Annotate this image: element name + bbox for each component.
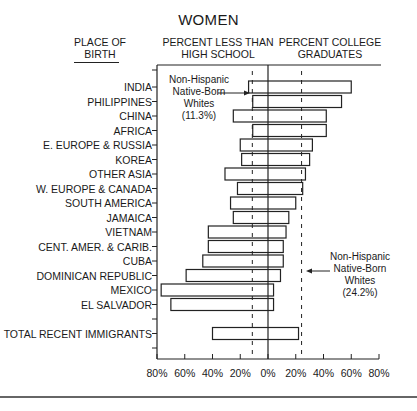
category-label: SOUTH AMERICA bbox=[65, 197, 152, 209]
category-label: JAMAICA bbox=[106, 212, 152, 224]
category-label: MEXICO bbox=[111, 284, 152, 296]
note-line: Non-Hispanic bbox=[163, 74, 235, 86]
category-label: VIETNAM bbox=[105, 226, 152, 238]
bar-mexico bbox=[161, 284, 273, 296]
category-label: EL SALVADOR bbox=[81, 299, 152, 311]
plot-area bbox=[0, 0, 417, 411]
category-label: TOTAL RECENT IMMIGRANTS bbox=[4, 328, 152, 340]
bar-el-salvador bbox=[171, 299, 274, 311]
category-label: W. EUROPE & CANADA bbox=[36, 183, 152, 195]
category-label: CUBA bbox=[123, 255, 152, 267]
bar-other-asia bbox=[225, 168, 305, 180]
bar-africa bbox=[253, 125, 327, 137]
note-line: (11.3%) bbox=[163, 110, 235, 122]
bar-vietnam bbox=[208, 226, 286, 238]
category-label: INDIA bbox=[124, 81, 152, 93]
note-line: Non-Hispanic bbox=[322, 251, 398, 263]
bar-jamaica bbox=[233, 212, 289, 224]
category-label: KOREA bbox=[115, 154, 152, 166]
left-reference-note: Non-Hispanic Native-Born Whites (11.3%) bbox=[163, 74, 235, 122]
right-reference-note: Non-Hispanic Native-Born Whites (24.2%) bbox=[322, 251, 398, 299]
bar-philippines bbox=[253, 96, 342, 108]
category-label: AFRICA bbox=[113, 125, 152, 137]
bar-total-recent-immigrants bbox=[213, 328, 299, 340]
category-label: DOMINICAN REPUBLIC bbox=[36, 270, 152, 282]
note-line: Whites bbox=[322, 275, 398, 287]
bar-w-europe-canada bbox=[237, 183, 302, 195]
bar-india bbox=[249, 81, 352, 93]
category-label: E. EUROPE & RUSSIA bbox=[43, 139, 152, 151]
bar-cent-amer-carib- bbox=[208, 241, 283, 253]
bar-dominican-republic bbox=[186, 270, 280, 282]
category-label: CHINA bbox=[119, 110, 152, 122]
bar-cuba bbox=[203, 255, 283, 267]
category-label: PHILIPPINES bbox=[87, 96, 152, 108]
bar-south-america bbox=[231, 197, 296, 209]
bar-china bbox=[233, 110, 326, 122]
note-line: Native-Born bbox=[163, 86, 235, 98]
category-label: OTHER ASIA bbox=[89, 168, 152, 180]
note-line: (24.2%) bbox=[322, 287, 398, 299]
arrow-head-icon bbox=[306, 269, 312, 274]
category-label: CENT. AMER. & CARIB. bbox=[38, 241, 152, 253]
note-line: Native-Born bbox=[322, 263, 398, 275]
x-tick-label: 80% bbox=[361, 367, 397, 379]
note-line: Whites bbox=[163, 98, 235, 110]
